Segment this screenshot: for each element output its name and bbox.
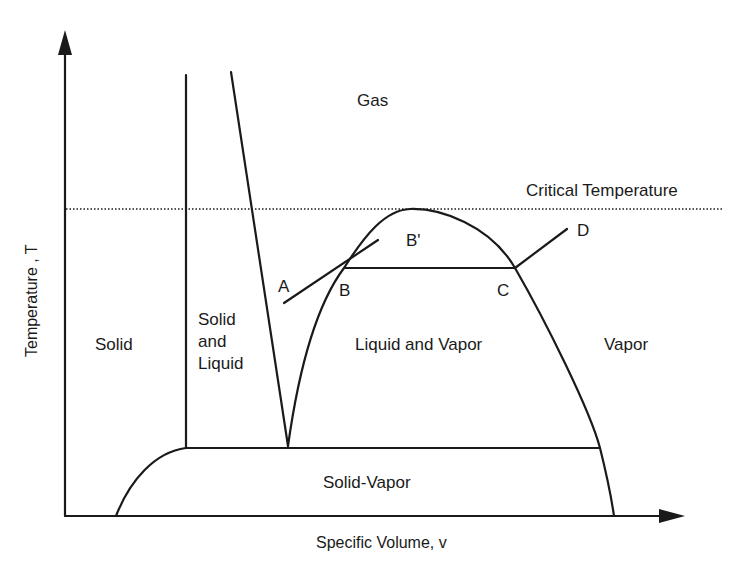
region-solid-and-liquid-label-line2: and: [198, 332, 226, 351]
sublimation-curve: [116, 448, 186, 516]
fusion-line: [231, 72, 288, 446]
region-vapor-label: Vapor: [604, 335, 648, 354]
point-c-label: C: [497, 281, 509, 300]
y-axis-arrow-icon: [58, 30, 72, 55]
critical-temperature-label: Critical Temperature: [526, 181, 678, 200]
point-b-label: B: [339, 281, 350, 300]
saturation-dome: [288, 209, 614, 516]
point-d-label: D: [577, 221, 589, 240]
process-line-ab: [284, 240, 378, 303]
region-solid-vapor-label: Solid-Vapor: [323, 473, 411, 492]
phase-diagram: Gas Critical Temperature Solid Solid and…: [0, 0, 746, 574]
point-a-label: A: [278, 277, 290, 296]
process-line-cd: [515, 229, 567, 268]
point-b-prime-label: B': [406, 231, 421, 250]
x-axis-arrow-icon: [659, 509, 685, 523]
region-solid-label: Solid: [95, 335, 133, 354]
region-solid-and-liquid-label-line3: Liquid: [198, 354, 243, 373]
region-gas-label: Gas: [357, 91, 388, 110]
x-axis-label: Specific Volume, v: [316, 534, 447, 551]
y-axis-label: Temperature , T: [23, 244, 40, 357]
region-liquid-and-vapor-label: Liquid and Vapor: [355, 335, 483, 354]
region-solid-and-liquid-label-line1: Solid: [198, 310, 236, 329]
